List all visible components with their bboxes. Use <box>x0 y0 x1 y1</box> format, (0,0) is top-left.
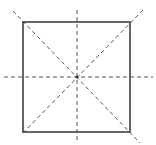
center-point <box>76 76 79 79</box>
square-symmetry-diagram <box>0 0 156 145</box>
symmetry-line-diagonal-2 <box>21 10 143 135</box>
